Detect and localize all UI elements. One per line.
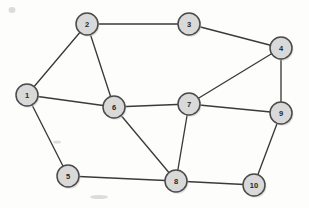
node-label-5: 5 — [66, 172, 70, 181]
graph-diagram: 12345678910 — [0, 0, 309, 208]
graph-node-3[interactable]: 3 — [178, 13, 201, 37]
node-label-6: 6 — [112, 103, 116, 112]
graph-node-10[interactable]: 10 — [243, 174, 266, 198]
graph-node-9[interactable]: 9 — [270, 102, 293, 126]
graph-edge-1-6 — [27, 95, 114, 107]
node-label-3: 3 — [187, 20, 191, 29]
graph-canvas: 12345678910 — [0, 0, 309, 208]
graph-edge-6-8 — [114, 107, 176, 181]
node-label-9: 9 — [279, 109, 283, 118]
scan-speck — [53, 140, 61, 143]
graph-node-4[interactable]: 4 — [270, 37, 293, 61]
edge-layer — [27, 24, 281, 185]
graph-node-7[interactable]: 7 — [178, 93, 201, 117]
graph-edge-1-5 — [27, 95, 68, 176]
graph-node-5[interactable]: 5 — [57, 165, 80, 189]
graph-node-8[interactable]: 8 — [165, 170, 188, 194]
node-label-7: 7 — [187, 100, 191, 109]
node-label-2: 2 — [85, 20, 89, 29]
scan-speck — [9, 7, 16, 13]
scan-speck — [90, 195, 108, 199]
graph-node-1[interactable]: 1 — [16, 84, 39, 108]
graph-edge-7-9 — [189, 104, 281, 113]
graph-edge-2-6 — [87, 24, 114, 107]
graph-edge-5-8 — [68, 176, 176, 181]
node-label-10: 10 — [250, 181, 258, 190]
node-label-8: 8 — [174, 177, 178, 186]
graph-edge-3-4 — [189, 24, 281, 48]
graph-edge-1-2 — [27, 24, 87, 95]
graph-edge-4-7 — [189, 48, 281, 104]
graph-node-6[interactable]: 6 — [103, 96, 126, 120]
node-label-1: 1 — [25, 91, 29, 100]
